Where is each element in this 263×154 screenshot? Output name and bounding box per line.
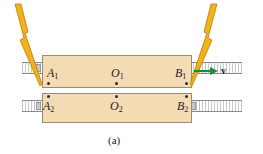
- point-o2-label: O2: [110, 100, 123, 114]
- point-o1-dot: [115, 82, 118, 85]
- rail: [22, 100, 44, 101]
- velocity-arrow-icon: [193, 66, 219, 76]
- bumper-left-bottom: [36, 102, 41, 110]
- figure-caption: (a): [108, 134, 120, 146]
- track-bottom-right: [190, 100, 242, 112]
- point-b2-dot: [185, 95, 188, 98]
- relativity-diagram: A1 O1 B1 A2 O2 B2 v (a): [0, 0, 263, 154]
- rail: [22, 111, 44, 112]
- rail: [190, 111, 242, 112]
- velocity-label: v: [221, 65, 226, 76]
- point-b2-label: B2: [177, 100, 188, 114]
- point-a1-label: A1: [47, 67, 58, 81]
- point-a2-label: A2: [43, 100, 54, 114]
- point-o2-dot: [115, 95, 118, 98]
- point-a2-dot: [47, 95, 50, 98]
- rail: [190, 100, 242, 101]
- lightning-bolt-left-icon: [12, 2, 48, 88]
- point-o1-label: O1: [111, 67, 124, 81]
